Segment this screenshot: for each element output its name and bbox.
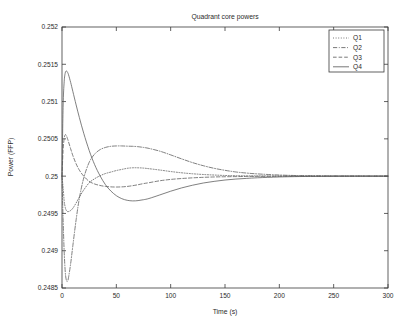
- y-tick-label: 0.2515: [38, 61, 59, 68]
- x-tick-label: 50: [113, 292, 121, 299]
- y-tick-label: 0.25: [45, 173, 58, 180]
- series-line-q3: [62, 135, 388, 187]
- x-axis-label: Time (s): [213, 308, 238, 316]
- chart-legend[interactable]: Q1Q2Q3Q4: [329, 30, 384, 72]
- legend-label-q4: Q4: [353, 63, 362, 71]
- series-line-q2: [62, 146, 388, 282]
- x-tick-label: 200: [274, 292, 285, 299]
- x-tick-label: 0: [60, 292, 64, 299]
- y-tick-label: 0.251: [41, 98, 58, 105]
- chart-title: Quadrant core powers: [191, 13, 259, 21]
- y-tick-label: 0.249: [41, 247, 58, 254]
- series-group: [62, 71, 388, 282]
- x-tick-label: 250: [328, 292, 339, 299]
- legend-label-q3: Q3: [353, 54, 362, 62]
- legend-label-q2: Q2: [353, 44, 362, 52]
- line-chart: 050100150200250300 0.24850.2490.24950.25…: [0, 0, 407, 324]
- y-tick-label: 0.252: [41, 23, 58, 30]
- legend-label-q1: Q1: [353, 34, 362, 42]
- y-tick-label: 0.2505: [38, 135, 59, 142]
- series-line-q1: [62, 168, 388, 212]
- y-tick-label: 0.2485: [38, 284, 59, 291]
- x-tick-label: 100: [165, 292, 176, 299]
- series-line-q4: [62, 71, 388, 201]
- x-tick-label: 300: [382, 292, 393, 299]
- y-tick-label: 0.2495: [38, 210, 59, 217]
- x-tick-label: 150: [219, 292, 230, 299]
- figure-canvas: 050100150200250300 0.24850.2490.24950.25…: [0, 0, 407, 324]
- y-axis-label: Power (FFP): [7, 138, 15, 177]
